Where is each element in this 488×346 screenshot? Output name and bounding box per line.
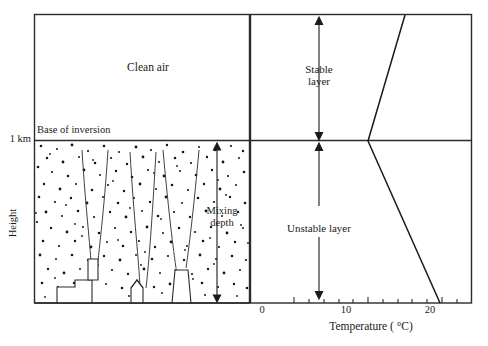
temperature-profile-line: [368, 15, 440, 303]
chimney-stack: [88, 259, 98, 280]
height-tick-label-1km: 1 km: [10, 133, 31, 145]
base-of-inversion-label: Base of inversion: [37, 124, 111, 136]
right-panel-frame: [251, 15, 472, 304]
x-axis-label: Temperature ( °C): [329, 320, 413, 333]
cooling-tower: [172, 270, 191, 303]
stable-layer-label: Stable layer: [305, 63, 333, 88]
factory-building: [57, 280, 92, 303]
x-tick-label: 20: [425, 304, 436, 316]
mixing-depth-label: Mixing depth: [207, 205, 238, 229]
mixing-depth-label-line1: Mixing: [207, 205, 238, 217]
stable-layer-label-line1: Stable: [305, 63, 333, 75]
smoke-plumes: [82, 150, 199, 288]
clean-air-label: Clean air: [127, 61, 169, 74]
unstable-layer-label: Unstable layer: [287, 222, 351, 234]
stable-layer-label-line2: layer: [305, 75, 333, 87]
inversion-diagram: [0, 0, 488, 346]
height-axis-label: Height: [7, 209, 19, 238]
city-structures: [57, 259, 191, 303]
unstable-layer-arrow: [315, 143, 322, 299]
x-tick-label: 0: [259, 304, 264, 316]
x-tick-label: 10: [341, 304, 352, 316]
mixing-depth-label-line2: depth: [207, 217, 238, 229]
house: [131, 280, 143, 303]
